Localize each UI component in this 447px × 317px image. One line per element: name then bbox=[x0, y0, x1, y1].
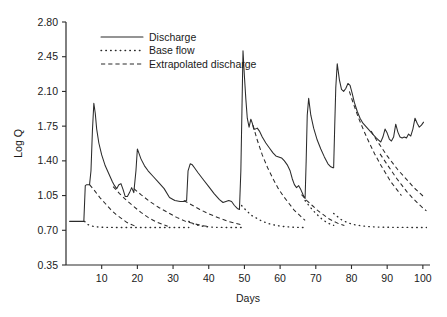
x-tick-label: 10 bbox=[96, 272, 108, 284]
legend-label: Base flow bbox=[149, 44, 195, 56]
x-tick-label: 70 bbox=[310, 272, 322, 284]
y-axis-ticks: 0.350.701.051.401.752.102.452.80 bbox=[38, 16, 66, 271]
series-line-extrapolated-discharge bbox=[113, 187, 168, 227]
series-layer bbox=[70, 51, 427, 228]
series-line-extrapolated-discharge bbox=[134, 189, 207, 227]
x-tick-label: 100 bbox=[414, 272, 432, 284]
x-axis-ticks: 102030405060708090100 bbox=[96, 265, 432, 284]
x-tick-label: 30 bbox=[167, 272, 179, 284]
y-tick-label: 0.70 bbox=[38, 224, 59, 236]
hydrograph-figure: 0.350.701.051.401.752.102.452.80 1020304… bbox=[0, 0, 447, 317]
y-tick-label: 2.80 bbox=[38, 16, 59, 28]
series-line-extrapolated-discharge bbox=[90, 185, 136, 227]
y-tick-label: 1.75 bbox=[38, 120, 59, 132]
series-line-extrapolated-discharge bbox=[302, 195, 345, 226]
series-line-extrapolated-discharge bbox=[253, 125, 305, 220]
series-line-base-flow bbox=[305, 201, 334, 226]
x-tick-label: 50 bbox=[239, 272, 251, 284]
x-tick-label: 80 bbox=[346, 272, 358, 284]
series-line-discharge bbox=[70, 51, 424, 222]
y-axis-title: Log Q bbox=[12, 129, 24, 158]
y-tick-label: 2.45 bbox=[38, 50, 59, 62]
series-line-base-flow bbox=[242, 205, 306, 227]
chart-canvas: 0.350.701.051.401.752.102.452.80 1020304… bbox=[0, 0, 447, 317]
series-line-extrapolated-discharge bbox=[349, 91, 401, 195]
series-line-extrapolated-discharge bbox=[380, 154, 426, 211]
x-tick-label: 90 bbox=[381, 272, 393, 284]
x-tick-label: 40 bbox=[203, 272, 215, 284]
y-tick-label: 2.10 bbox=[38, 85, 59, 97]
series-line-base-flow bbox=[85, 221, 189, 227]
x-tick-label: 20 bbox=[132, 272, 144, 284]
x-tick-label: 60 bbox=[274, 272, 286, 284]
y-tick-label: 0.35 bbox=[38, 259, 59, 271]
x-axis-title: Days bbox=[236, 292, 260, 304]
series-line-base-flow bbox=[334, 213, 427, 227]
legend-label: Extrapolated discharge bbox=[149, 58, 257, 70]
y-tick-label: 1.40 bbox=[38, 154, 59, 166]
chart-legend: DischargeBase flowExtrapolated discharge bbox=[101, 31, 257, 70]
legend-label: Discharge bbox=[149, 31, 196, 43]
y-tick-label: 1.05 bbox=[38, 189, 59, 201]
